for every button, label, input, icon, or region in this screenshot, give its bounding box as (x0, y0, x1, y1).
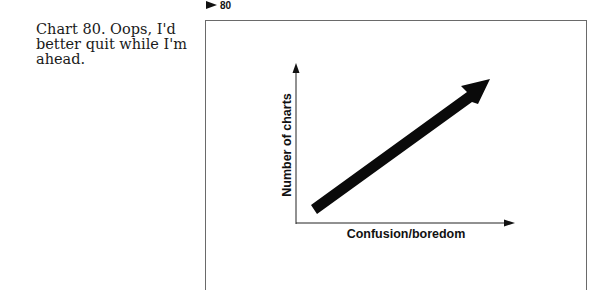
y-axis-label: Number of charts (280, 93, 294, 197)
x-axis-arrowhead-icon (504, 220, 515, 227)
trend-arrow-icon (311, 79, 490, 214)
x-axis-label: Confusion/boredom (341, 227, 471, 241)
y-axis-arrowhead-icon (293, 63, 300, 73)
